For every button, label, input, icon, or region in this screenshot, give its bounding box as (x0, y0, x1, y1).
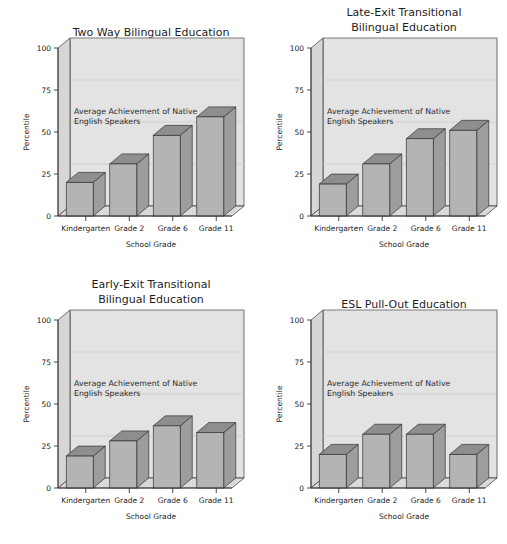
x-tick-label: Kindergarten (314, 224, 363, 233)
y-tick-label: 50 (294, 400, 304, 409)
svg-text:Bilingual Education: Bilingual Education (351, 21, 457, 34)
svg-text:Early-Exit Transitional: Early-Exit Transitional (92, 278, 211, 291)
chart-panel-late-exit-transitional-bilingual-education: Late-Exit TransitionalBilingual Educatio… (253, 0, 507, 272)
x-tick-label: Grade 11 (452, 224, 487, 233)
y-tick-label: 75 (294, 86, 304, 95)
y-tick-label: 0 (299, 212, 304, 221)
x-tick-label: Grade 11 (199, 496, 234, 505)
svg-text:English Speakers: English Speakers (74, 117, 140, 126)
bar-grade-11 (450, 120, 489, 216)
bar-grade-6 (153, 125, 192, 216)
y-axis: 0255075100 (37, 44, 58, 221)
svg-text:Two Way Bilingual Education: Two Way Bilingual Education (72, 26, 230, 39)
x-tick-label: Grade 6 (158, 224, 188, 233)
bar-kindergarten (319, 174, 358, 216)
y-tick-label: 100 (290, 44, 305, 53)
y-axis-label: Percentile (275, 113, 284, 150)
bar-grade-2 (363, 154, 402, 216)
y-tick-label: 50 (41, 128, 51, 137)
chart-title: Two Way Bilingual Education (72, 26, 230, 39)
x-axis-label: School Grade (126, 240, 177, 249)
x-axis: KindergartenGrade 2Grade 6Grade 11 (61, 216, 234, 233)
y-tick-label: 25 (294, 170, 304, 179)
y-axis: 0255075100 (290, 316, 311, 493)
svg-text:Average Achievement of Native: Average Achievement of Native (74, 379, 198, 388)
y-tick-label: 25 (41, 170, 51, 179)
svg-text:Bilingual Education: Bilingual Education (98, 293, 204, 306)
bar-grade-2 (110, 154, 149, 216)
y-tick-label: 25 (294, 442, 304, 451)
x-tick-label: Grade 2 (114, 496, 144, 505)
y-axis-label: Percentile (22, 385, 31, 422)
bar-kindergarten (319, 444, 358, 488)
x-tick-label: Grade 2 (367, 224, 397, 233)
x-axis-label: School Grade (379, 512, 430, 521)
x-axis-label: School Grade (379, 240, 430, 249)
y-axis: 0255075100 (290, 44, 311, 221)
y-axis-label: Percentile (275, 385, 284, 422)
y-tick-label: 100 (37, 316, 52, 325)
svg-text:English Speakers: English Speakers (327, 389, 393, 398)
x-tick-label: Kindergarten (61, 224, 110, 233)
y-tick-label: 100 (290, 316, 305, 325)
y-axis-label: Percentile (22, 113, 31, 150)
y-tick-label: 0 (46, 484, 51, 493)
chart-grid: Two Way Bilingual Education0255075100Per… (0, 0, 507, 544)
bar-grade-11 (450, 444, 489, 488)
y-tick-label: 75 (41, 358, 51, 367)
svg-text:Average Achievement of Native: Average Achievement of Native (74, 107, 198, 116)
y-tick-label: 100 (37, 44, 52, 53)
svg-text:Average Achievement of Native: Average Achievement of Native (327, 379, 451, 388)
bar-grade-2 (363, 424, 402, 488)
bar-grade-6 (153, 416, 192, 488)
bar-kindergarten (66, 172, 105, 216)
svg-text:Average Achievement of Native: Average Achievement of Native (327, 107, 451, 116)
x-tick-label: Grade 6 (411, 224, 441, 233)
svg-text:Late-Exit Transitional: Late-Exit Transitional (346, 6, 461, 19)
bar-grade-6 (406, 129, 445, 216)
y-tick-label: 75 (294, 358, 304, 367)
x-tick-label: Kindergarten (314, 496, 363, 505)
bar-kindergarten (66, 446, 105, 488)
chart-title: Early-Exit TransitionalBilingual Educati… (92, 278, 211, 306)
chart-title: ESL Pull-Out Education (341, 298, 467, 311)
x-tick-label: Grade 11 (452, 496, 487, 505)
x-axis-label: School Grade (126, 512, 177, 521)
bar-grade-2 (110, 431, 149, 488)
chart-panel-two-way-bilingual-education: Two Way Bilingual Education0255075100Per… (0, 0, 253, 272)
x-tick-label: Grade 11 (199, 224, 234, 233)
x-axis: KindergartenGrade 2Grade 6Grade 11 (61, 488, 234, 505)
y-tick-label: 25 (41, 442, 51, 451)
bar-grade-6 (406, 424, 445, 488)
y-tick-label: 50 (294, 128, 304, 137)
chart-panel-esl-pull-out-education: ESL Pull-Out Education0255075100Percenti… (253, 272, 507, 544)
chart-panel-early-exit-transitional-bilingual-education: Early-Exit TransitionalBilingual Educati… (0, 272, 253, 544)
y-tick-label: 75 (41, 86, 51, 95)
x-tick-label: Grade 2 (367, 496, 397, 505)
svg-text:English Speakers: English Speakers (74, 389, 140, 398)
y-axis: 0255075100 (37, 316, 58, 493)
bar-grade-11 (197, 107, 236, 216)
y-tick-label: 0 (46, 212, 51, 221)
bar-grade-11 (197, 423, 236, 488)
x-tick-label: Grade 2 (114, 224, 144, 233)
x-tick-label: Grade 6 (158, 496, 188, 505)
chart-title: Late-Exit TransitionalBilingual Educatio… (346, 6, 461, 34)
svg-text:English Speakers: English Speakers (327, 117, 393, 126)
x-axis: KindergartenGrade 2Grade 6Grade 11 (314, 216, 487, 233)
svg-text:ESL Pull-Out Education: ESL Pull-Out Education (341, 298, 467, 311)
y-tick-label: 50 (41, 400, 51, 409)
x-axis: KindergartenGrade 2Grade 6Grade 11 (314, 488, 487, 505)
x-tick-label: Kindergarten (61, 496, 110, 505)
x-tick-label: Grade 6 (411, 496, 441, 505)
y-tick-label: 0 (299, 484, 304, 493)
